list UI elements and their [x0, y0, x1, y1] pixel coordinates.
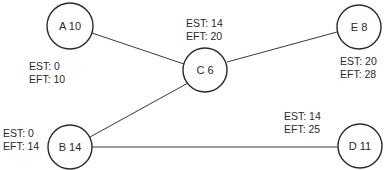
edge-b-c [90, 83, 188, 137]
node-d: D 11 [338, 124, 382, 168]
node-e-est: EST: 20 [340, 55, 377, 68]
node-d-times: EST: 14 EFT: 25 [284, 110, 321, 135]
node-a-est: EST: 0 [29, 60, 65, 73]
node-e: E 8 [337, 5, 381, 49]
node-e-times: EST: 20 EFT: 28 [340, 55, 377, 80]
node-b-label: B 14 [59, 141, 82, 153]
edge-c-e [227, 32, 337, 62]
node-b: B 14 [48, 125, 92, 169]
node-c-est: EST: 14 [186, 17, 223, 30]
node-c: C 6 [183, 48, 227, 92]
node-e-eft: EFT: 28 [340, 68, 377, 81]
node-a: A 10 [47, 3, 93, 49]
node-b-est: EST: 0 [3, 127, 39, 140]
node-c-times: EST: 14 EFT: 20 [186, 17, 223, 42]
node-d-est: EST: 14 [284, 110, 321, 123]
node-a-times: EST: 0 EFT: 10 [29, 60, 65, 85]
node-c-label: C 6 [196, 64, 213, 76]
edge-a-c [92, 33, 184, 64]
node-a-label: A 10 [59, 20, 81, 32]
node-b-times: EST: 0 EFT: 14 [3, 127, 39, 152]
node-e-label: E 8 [351, 21, 368, 33]
node-c-eft: EFT: 20 [186, 30, 223, 43]
node-d-label: D 11 [349, 140, 371, 152]
node-a-eft: EFT: 10 [29, 73, 65, 86]
node-b-eft: EFT: 14 [3, 140, 39, 153]
node-d-eft: EFT: 25 [284, 123, 321, 136]
